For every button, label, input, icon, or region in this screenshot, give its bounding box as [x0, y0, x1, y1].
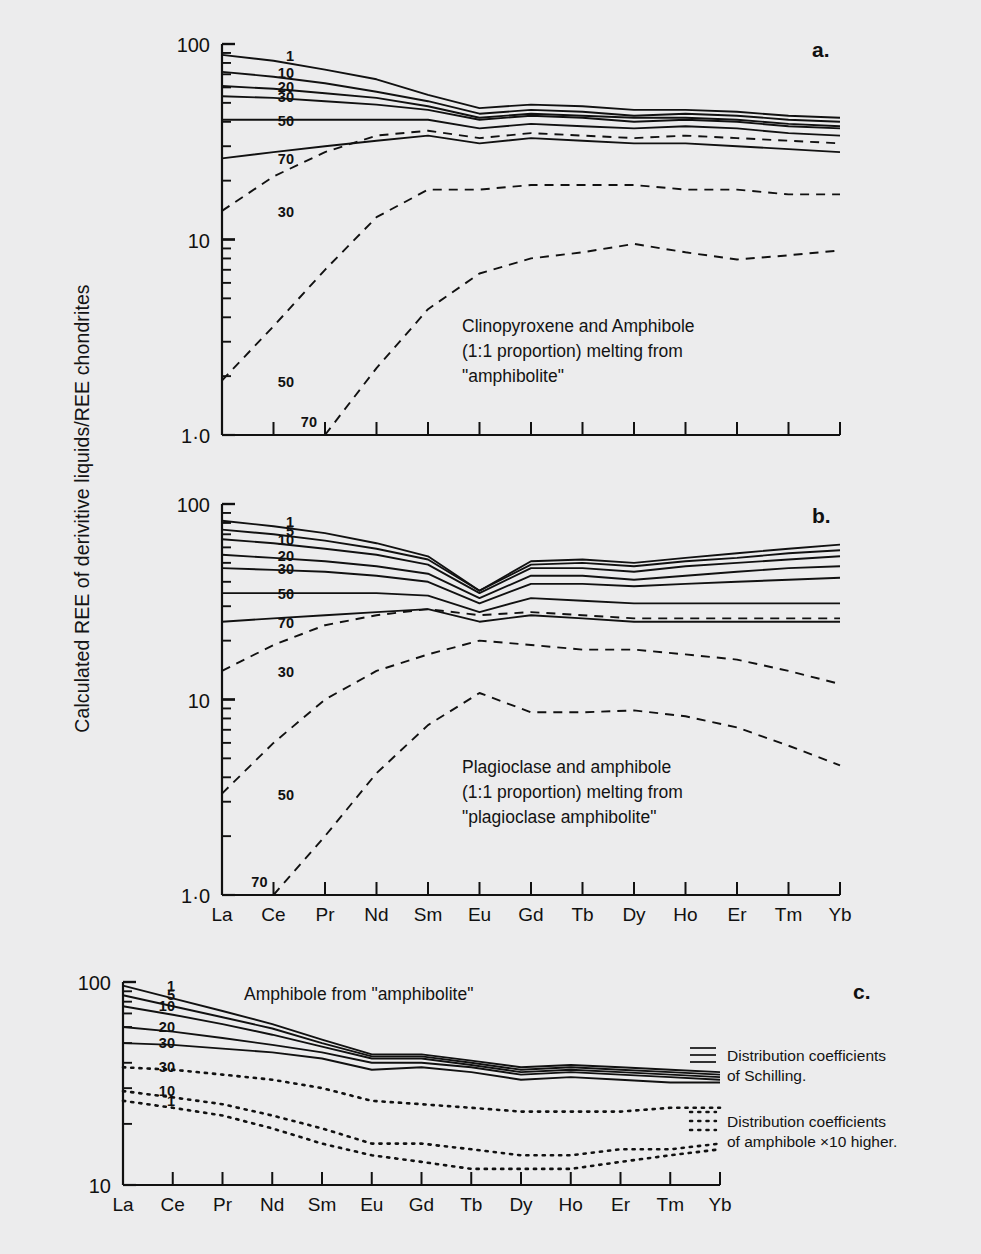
- panel-b-curves: [222, 521, 840, 895]
- svg-text:Eu: Eu: [468, 904, 491, 925]
- panel-b: 100101·0 151020305070305070 LaCePrNdSmEu…: [0, 460, 900, 930]
- svg-text:30: 30: [278, 89, 294, 105]
- panel-b-plot: 100101·0 151020305070305070 LaCePrNdSmEu…: [0, 460, 900, 930]
- legend-schilling-line-2: of Schilling.: [727, 1066, 886, 1086]
- svg-text:30: 30: [159, 1059, 175, 1075]
- panel-a-letter: a.: [812, 38, 830, 62]
- svg-text:100: 100: [78, 972, 111, 994]
- panel-c-legend-marks: [690, 1048, 716, 1130]
- svg-text:Nd: Nd: [260, 1194, 284, 1215]
- panel-c: 10010 1510203030101 LaCePrNdSmEuGdTbDyHo…: [0, 960, 981, 1250]
- svg-text:10: 10: [188, 690, 210, 712]
- svg-text:50: 50: [278, 374, 294, 390]
- svg-text:Dy: Dy: [622, 904, 646, 925]
- svg-text:Tm: Tm: [775, 904, 802, 925]
- svg-text:1: 1: [167, 1093, 175, 1109]
- panel-c-curve-labels: 1510203030101: [159, 978, 175, 1109]
- svg-text:Eu: Eu: [360, 1194, 383, 1215]
- svg-text:Ce: Ce: [161, 1194, 185, 1215]
- panel-c-curves: [123, 986, 720, 1169]
- svg-text:Sm: Sm: [308, 1194, 337, 1215]
- panel-c-plot: 10010 1510203030101 LaCePrNdSmEuGdTbDyHo…: [0, 960, 981, 1250]
- svg-text:Tb: Tb: [460, 1194, 482, 1215]
- svg-text:10: 10: [159, 998, 175, 1014]
- panel-a-curve-labels: 11020305070305070: [278, 48, 317, 430]
- svg-text:30: 30: [278, 664, 294, 680]
- svg-text:Nd: Nd: [364, 904, 388, 925]
- panel-b-caption-line-3: "plagioclase amphibolite": [462, 805, 683, 830]
- panel-a: 100101·0 11020305070305070 a. Clinopyrox…: [0, 0, 900, 470]
- panel-a-plot: 100101·0 11020305070305070: [0, 0, 900, 470]
- svg-text:Pr: Pr: [213, 1194, 233, 1215]
- svg-text:Gd: Gd: [409, 1194, 434, 1215]
- svg-text:70: 70: [278, 615, 294, 631]
- svg-text:Yb: Yb: [828, 904, 851, 925]
- svg-text:1·0: 1·0: [181, 885, 210, 907]
- svg-text:10: 10: [89, 1175, 111, 1197]
- legend-entry-schilling: Distribution coefficients of Schilling.: [727, 1046, 886, 1086]
- panel-a-caption-line-2: (1:1 proportion) melting from: [462, 339, 695, 364]
- legend-amphibole-line-1: Distribution coefficients: [727, 1112, 897, 1132]
- panel-b-x-tick-labels: LaCePrNdSmEuGdTbDyHoErTmYb: [211, 904, 851, 925]
- ree-figure: Calculated REE of derivitive liquids/REE…: [0, 0, 981, 1254]
- svg-text:Ho: Ho: [673, 904, 697, 925]
- panel-b-letter: b.: [812, 504, 831, 528]
- svg-text:Tm: Tm: [657, 1194, 684, 1215]
- panel-b-axes: 100101·0: [177, 494, 840, 907]
- svg-text:70: 70: [278, 151, 294, 167]
- svg-text:Tb: Tb: [571, 904, 593, 925]
- svg-text:10: 10: [188, 230, 210, 252]
- legend-schilling-line-1: Distribution coefficients: [727, 1046, 886, 1066]
- svg-text:50: 50: [278, 586, 294, 602]
- panel-a-caption-line-3: "amphibolite": [462, 364, 695, 389]
- svg-text:Er: Er: [611, 1194, 631, 1215]
- svg-text:Ho: Ho: [559, 1194, 583, 1215]
- svg-text:70: 70: [301, 414, 317, 430]
- svg-text:10: 10: [278, 532, 294, 548]
- svg-text:Yb: Yb: [708, 1194, 731, 1215]
- panel-c-title: Amphibole from "amphibolite": [244, 982, 473, 1007]
- svg-text:20: 20: [159, 1019, 175, 1035]
- panel-c-x-tick-labels: LaCePrNdSmEuGdTbDyHoErTmYb: [112, 1194, 731, 1215]
- panel-b-caption-line-2: (1:1 proportion) melting from: [462, 780, 683, 805]
- svg-text:50: 50: [278, 113, 294, 129]
- panel-b-caption-line-1: Plagioclase and amphibole: [462, 755, 683, 780]
- svg-text:50: 50: [278, 787, 294, 803]
- svg-text:Gd: Gd: [518, 904, 543, 925]
- svg-text:1·0: 1·0: [181, 425, 210, 447]
- panel-a-caption: Clinopyroxene and Amphibole (1:1 proport…: [462, 314, 695, 389]
- panel-b-caption: Plagioclase and amphibole (1:1 proportio…: [462, 755, 683, 830]
- svg-text:Ce: Ce: [261, 904, 285, 925]
- svg-text:Sm: Sm: [414, 904, 443, 925]
- panel-c-letter: c.: [853, 980, 871, 1004]
- svg-text:100: 100: [177, 494, 210, 516]
- svg-text:70: 70: [251, 874, 267, 890]
- svg-text:1: 1: [286, 48, 294, 64]
- svg-text:Pr: Pr: [316, 904, 336, 925]
- svg-text:Er: Er: [728, 904, 748, 925]
- svg-text:La: La: [211, 904, 233, 925]
- svg-text:30: 30: [278, 561, 294, 577]
- svg-text:30: 30: [159, 1035, 175, 1051]
- svg-text:Dy: Dy: [509, 1194, 533, 1215]
- svg-text:La: La: [112, 1194, 134, 1215]
- legend-entry-amphibole-x10: Distribution coefficients of amphibole ×…: [727, 1112, 897, 1152]
- svg-text:100: 100: [177, 34, 210, 56]
- panel-a-caption-line-1: Clinopyroxene and Amphibole: [462, 314, 695, 339]
- svg-text:30: 30: [278, 204, 294, 220]
- legend-amphibole-line-2: of amphibole ×10 higher.: [727, 1132, 897, 1152]
